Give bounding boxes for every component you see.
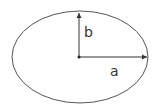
ellipse-diagram: b a	[0, 0, 165, 109]
center-point	[78, 56, 81, 59]
label-b: b	[84, 24, 93, 40]
label-a: a	[110, 63, 119, 79]
